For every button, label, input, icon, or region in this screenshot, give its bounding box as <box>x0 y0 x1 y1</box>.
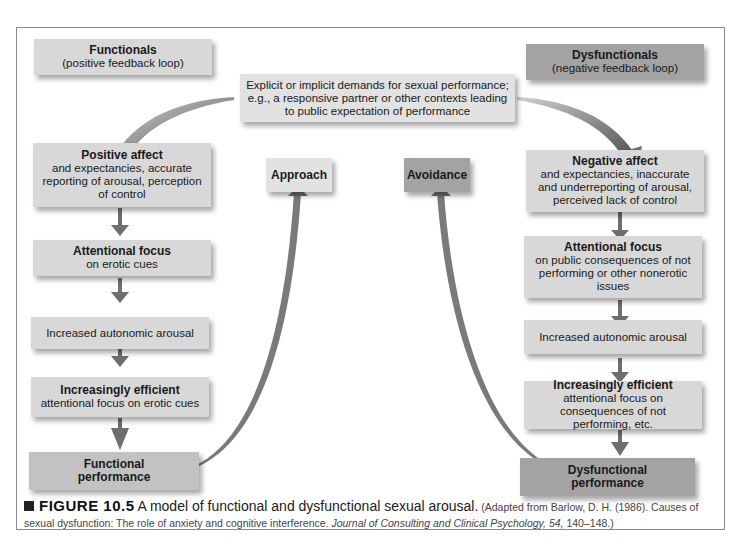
negative-affect-text: and expectancies, inaccurate and underre… <box>526 168 704 207</box>
approach-box: Approach <box>266 158 332 192</box>
left-autonomic-arousal-text: Increased autonomic arousal <box>46 327 194 340</box>
avoidance-box: Avoidance <box>404 158 470 192</box>
dysfunctional-performance-title: Dysfunctional performance <box>558 464 658 490</box>
figure-title: A model of functional and dysfunctional … <box>137 498 478 514</box>
dysfunctionals-title: Dysfunctionals <box>572 49 658 62</box>
functional-performance-box: Functional performance <box>29 452 199 490</box>
right-autonomic-arousal-text: Increased autonomic arousal <box>539 331 687 344</box>
negative-affect-box: Negative affect and expectancies, inaccu… <box>526 150 704 212</box>
left-increasingly-efficient-box: Increasingly efficient attentional focus… <box>31 377 209 417</box>
left-increasingly-efficient-title: Increasingly efficient <box>60 384 179 397</box>
dysfunctional-performance-box: Dysfunctional performance <box>520 458 695 496</box>
left-attentional-focus-text: on erotic cues <box>86 258 158 271</box>
left-attentional-focus-box: Attentional focus on erotic cues <box>33 240 211 276</box>
left-autonomic-arousal-box: Increased autonomic arousal <box>31 317 209 349</box>
approach-label: Approach <box>271 169 327 182</box>
functional-performance-title: Functional performance <box>69 458 159 484</box>
right-attentional-focus-title: Attentional focus <box>564 241 662 254</box>
left-attentional-focus-title: Attentional focus <box>73 245 171 258</box>
positive-affect-box: Positive affect and expectancies, accura… <box>33 143 211 207</box>
right-attentional-focus-box: Attentional focus on public consequences… <box>524 236 702 298</box>
figure-caption: FIGURE 10.5 A model of functional and dy… <box>24 498 724 531</box>
dysfunctionals-header: Dysfunctionals (negative feedback loop) <box>526 44 704 80</box>
negative-affect-title: Negative affect <box>572 155 657 168</box>
right-increasingly-efficient-title: Increasingly efficient <box>553 379 672 392</box>
demands-box: Explicit or implicit demands for sexual … <box>240 74 515 122</box>
left-increasingly-efficient-text: attentional focus on erotic cues <box>41 397 200 410</box>
functionals-header: Functionals (positive feedback loop) <box>34 39 212 75</box>
functionals-subtitle: (positive feedback loop) <box>62 57 183 70</box>
right-autonomic-arousal-box: Increased autonomic arousal <box>524 320 702 354</box>
demands-line-3: to public expectation of performance <box>285 105 470 118</box>
figure-source-end: 140–148.) <box>564 517 614 529</box>
positive-affect-title: Positive affect <box>81 149 162 162</box>
avoidance-label: Avoidance <box>407 169 467 182</box>
right-increasingly-efficient-text: attentional focus on consequences of not… <box>524 392 702 431</box>
caption-bullet-icon <box>24 501 34 511</box>
right-increasingly-efficient-box: Increasingly efficient attentional focus… <box>524 381 702 429</box>
demands-line-2: e.g., a responsive partner or other cont… <box>248 92 508 105</box>
figure-label: FIGURE 10.5 <box>39 497 135 514</box>
right-attentional-focus-text: on public consequences of not performing… <box>524 254 702 293</box>
figure-journal: Journal of Consulting and Clinical Psych… <box>331 517 563 529</box>
dysfunctionals-subtitle: (negative feedback loop) <box>552 62 678 75</box>
positive-affect-text: and expectancies, accurate reporting of … <box>33 162 211 201</box>
demands-line-1: Explicit or implicit demands for sexual … <box>246 79 509 92</box>
functionals-title: Functionals <box>89 44 156 57</box>
